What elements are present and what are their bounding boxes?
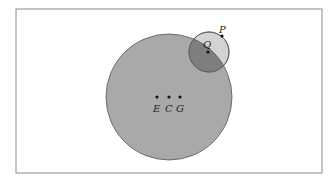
point-c bbox=[167, 95, 170, 98]
point-e bbox=[155, 95, 158, 98]
label-c: C bbox=[165, 103, 173, 114]
point-q bbox=[206, 50, 209, 53]
label-p: P bbox=[218, 24, 226, 35]
point-g bbox=[178, 95, 181, 98]
label-e: E bbox=[152, 103, 161, 114]
label-g: G bbox=[176, 103, 184, 114]
diagram-canvas: P Q E C G bbox=[0, 0, 336, 180]
label-q: Q bbox=[203, 39, 211, 50]
